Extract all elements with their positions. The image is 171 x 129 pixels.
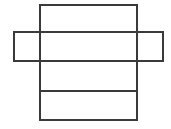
horizontal-strip [14, 32, 163, 61]
vertical-strip [40, 5, 137, 120]
diagram-canvas [0, 0, 171, 129]
box-net-svg [0, 0, 171, 129]
